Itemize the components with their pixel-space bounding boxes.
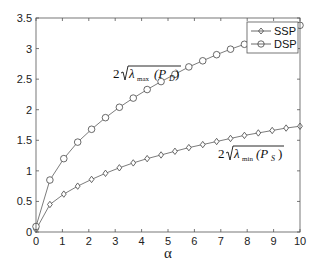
y-tick-label: 0 (26, 226, 32, 238)
diamond-marker-icon (173, 148, 178, 154)
diamond-marker-icon (270, 127, 275, 133)
diamond-marker-icon (228, 135, 233, 141)
y-tick-label: 1.5 (17, 134, 32, 146)
annotation-ssp-lambda: λ (233, 146, 240, 161)
diamond-marker-icon (214, 138, 219, 144)
diamond-marker-icon (145, 155, 150, 161)
diamond-marker-icon (200, 141, 205, 147)
annotation-ssp-arg-subscript: S (271, 154, 275, 163)
y-tick-label: 1 (26, 165, 32, 177)
diamond-marker-icon (284, 125, 289, 131)
circle-marker-icon (186, 64, 193, 71)
x-tick-label: 10 (294, 235, 306, 247)
x-tick-label: 6 (191, 235, 197, 247)
circle-marker-icon (130, 95, 137, 102)
diamond-marker-icon (186, 144, 191, 150)
y-tick-label: 2 (26, 104, 32, 116)
x-tick-label: 3 (112, 235, 118, 247)
circle-marker-icon (199, 58, 206, 65)
circle-marker-icon (74, 139, 81, 146)
annotation-dsp-lambda: λ (128, 66, 135, 81)
circle-marker-icon (102, 114, 109, 121)
diamond-marker-icon (256, 130, 261, 136)
circle-marker-icon (116, 104, 123, 111)
x-tick-label: 1 (59, 235, 65, 247)
x-tick-label: 2 (86, 235, 92, 247)
circle-marker-icon (227, 46, 234, 53)
circle-marker-icon (213, 51, 220, 58)
series-ssp (34, 123, 303, 233)
annotation-ssp-coefficient: 2 (218, 146, 225, 161)
diamond-marker-icon (75, 183, 80, 189)
annotation-dsp-close: ) (175, 66, 179, 81)
annotation-dsp: 2 λ max (P D ) (113, 66, 181, 83)
legend-label-ssp: SSP (274, 25, 296, 37)
diamond-marker-icon (159, 152, 164, 158)
circle-marker-icon (47, 177, 54, 184)
circle-marker-icon (88, 126, 95, 133)
diamond-marker-icon (242, 132, 247, 138)
circle-marker-icon (60, 155, 67, 162)
diamond-marker-icon (47, 201, 52, 207)
series-layer (33, 22, 304, 233)
diamond-marker-icon (103, 170, 108, 176)
legend-label-dsp: DSP (274, 38, 297, 50)
diamond-marker-icon (61, 191, 66, 197)
y-tick-label: 0.5 (17, 195, 32, 207)
annotation-dsp-coefficient: 2 (113, 66, 120, 81)
diamond-marker-icon (131, 160, 136, 166)
y-tick-label: 3 (26, 43, 32, 55)
x-tick-label: 4 (139, 235, 145, 247)
diamond-marker-icon (117, 165, 122, 171)
annotation-ssp-subscript: min (242, 155, 253, 163)
annotation-dsp-subscript: max (137, 75, 150, 83)
x-tick-label: 9 (271, 235, 277, 247)
annotation-ssp-argument: (P (256, 146, 268, 161)
line-chart: 012345678910 00.511.522.533.5 α 2 λ max … (0, 0, 321, 267)
annotation-dsp-argument: (P (154, 66, 166, 81)
circle-marker-icon (144, 86, 151, 93)
legend: SSP DSP (247, 22, 298, 53)
diamond-marker-icon (89, 176, 94, 182)
annotation-dsp-arg-subscript: D (168, 74, 175, 83)
y-tick-label: 2.5 (17, 73, 32, 85)
annotation-ssp-close: ) (278, 146, 282, 161)
annotation-ssp: 2 λ min (P S ) (218, 146, 284, 163)
x-tick-label: 7 (218, 235, 224, 247)
x-tick-label: 0 (33, 235, 39, 247)
x-tick-label: 8 (244, 235, 250, 247)
y-tick-label: 3.5 (17, 12, 32, 24)
x-axis-label: α (164, 245, 172, 261)
